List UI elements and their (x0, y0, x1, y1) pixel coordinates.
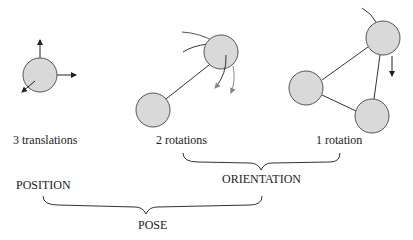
translations-label: 3 translations (13, 133, 77, 148)
two-rotations-label: 2 rotations (156, 133, 207, 148)
pose-label: POSE (138, 218, 167, 233)
one-rotation-label: 1 rotation (316, 133, 362, 148)
position-label: POSITION (16, 178, 71, 193)
link-top-left (322, 47, 368, 80)
two-rotations-figure (136, 32, 238, 127)
body-circle-top (366, 21, 400, 55)
pose-diagram (0, 0, 413, 240)
pose-brace (43, 196, 262, 214)
body-circle-bottom (355, 99, 389, 133)
body-circle-upper (204, 35, 238, 69)
translations-figure (22, 40, 76, 92)
orientation-label: ORIENTATION (222, 172, 301, 187)
link-bottom-left (322, 95, 356, 111)
orientation-brace (183, 153, 340, 170)
one-rotation-figure (289, 8, 400, 133)
rotation-arc-3 (362, 8, 376, 22)
body-circle-left (289, 71, 323, 105)
rotation-arrow-light-icon (231, 66, 234, 93)
body-circle-lower (136, 93, 170, 127)
link-top-bottom (374, 55, 380, 99)
link-line (166, 65, 209, 99)
